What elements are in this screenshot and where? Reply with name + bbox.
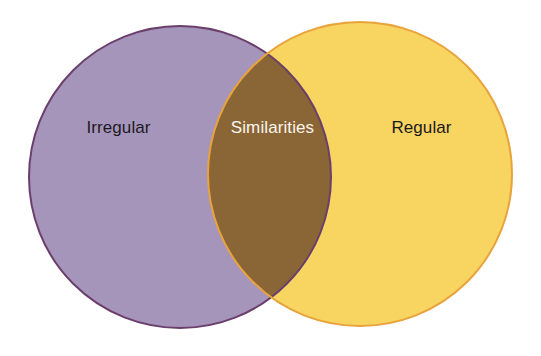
venn-diagram: Irregular Similarities Regular xyxy=(0,0,541,356)
venn-diagram-canvas xyxy=(0,0,541,356)
